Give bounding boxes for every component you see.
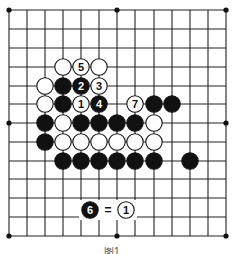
white-stone [146, 115, 162, 131]
black-stone [164, 96, 180, 112]
black-stone [182, 153, 198, 169]
star-point [223, 120, 228, 125]
black-stone: 6 [82, 202, 98, 218]
figure-caption: 图1 [104, 247, 124, 254]
star-point [114, 233, 119, 238]
move-annotation: 6=1 [79, 200, 137, 220]
white-stone [55, 59, 71, 75]
black-stone [127, 115, 143, 131]
black-stone [55, 96, 71, 112]
go-board: 523147 6=1 [0, 0, 233, 254]
black-stone [37, 134, 53, 150]
white-stone [37, 96, 53, 112]
white-stone [55, 115, 71, 131]
star-point [6, 233, 11, 238]
black-stone [55, 78, 71, 94]
white-stone [73, 134, 89, 150]
star-point [223, 7, 228, 12]
white-stone [109, 134, 125, 150]
star-point [114, 7, 119, 12]
black-stone [73, 153, 89, 169]
white-stone [37, 78, 53, 94]
black-stone [91, 115, 107, 131]
white-stone [127, 134, 143, 150]
move-number: 1 [78, 98, 84, 110]
black-stone [55, 153, 71, 169]
black-stone [37, 115, 53, 131]
star-point [223, 233, 228, 238]
black-stone: 2 [73, 78, 89, 94]
move-number: 3 [96, 80, 102, 92]
white-stone [146, 134, 162, 150]
white-stone: 7 [127, 96, 143, 112]
white-stone: 1 [118, 202, 134, 218]
black-stone [146, 153, 162, 169]
black-stone [109, 115, 125, 131]
move-number: 6 [87, 204, 93, 216]
move-number: 2 [78, 80, 84, 92]
black-stone [73, 115, 89, 131]
white-stone [55, 134, 71, 150]
white-stone: 1 [73, 96, 89, 112]
move-number: 5 [78, 61, 84, 73]
move-number: 4 [96, 98, 103, 110]
black-stone [109, 153, 125, 169]
white-stone [91, 134, 107, 150]
move-number: 7 [132, 98, 138, 110]
black-stone: 4 [91, 96, 107, 112]
white-stone [91, 59, 107, 75]
black-stone [146, 96, 162, 112]
star-point [6, 7, 11, 12]
black-stone [91, 153, 107, 169]
white-stone: 3 [91, 78, 107, 94]
white-stone: 5 [73, 59, 89, 75]
black-stone [127, 153, 143, 169]
equals-sign: = [104, 203, 111, 217]
star-point [6, 120, 11, 125]
move-number: 1 [123, 204, 129, 216]
